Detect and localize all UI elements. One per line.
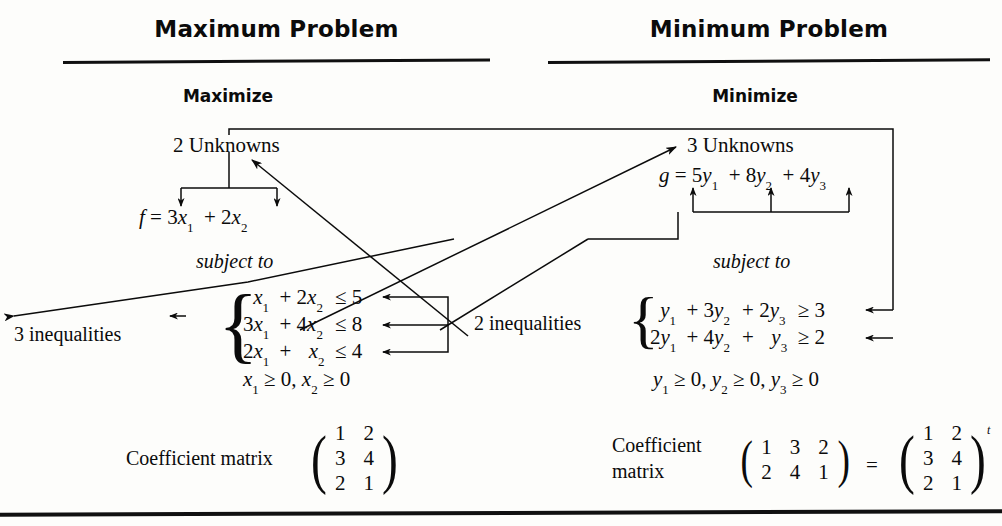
minimum-subject-to-label: subject to	[713, 250, 790, 273]
matrix-left-paren: (	[740, 434, 752, 486]
maximum-subject-to-label: subject to	[196, 250, 273, 273]
matrix-right-paren: )	[382, 426, 398, 492]
matrix-cell: 2	[752, 460, 781, 485]
maximum-constraint-row-2: 3x1 + 4x2 ≤ 8	[243, 311, 362, 338]
matrix-cell: 1	[914, 421, 943, 446]
matrix-cell: 2	[942, 421, 971, 446]
matrix-cell: 2	[326, 471, 355, 496]
matrix-cell: 4	[354, 446, 383, 471]
min-objective-bus-inlet	[588, 212, 678, 239]
maximum-matrix-cells: 123421	[326, 421, 383, 496]
matrix-right-paren: )	[970, 426, 986, 492]
minimum-transpose-matrix: ( 123421 ) t	[896, 421, 990, 496]
minimum-constraint-row-1: y1 + 3y2 + 2y3 ≥ 3	[650, 297, 825, 324]
minimize-subtitle: Minimize	[640, 86, 870, 106]
maximum-problem-title: Maximum Problem	[63, 16, 490, 42]
maximum-unknowns-label: 2 Unknowns	[173, 133, 280, 158]
transpose-exponent: t	[987, 423, 990, 438]
matrix-left-paren: (	[311, 426, 327, 492]
matrix-cell: 1	[326, 421, 355, 446]
maximize-subtitle: Maximize	[113, 86, 343, 106]
matrix-cell: 4	[942, 446, 971, 471]
matrix-cell: 1	[752, 435, 781, 460]
matrix-cell: 2	[914, 471, 943, 496]
minimum-nonnegativity-constraints: y1 ≥ 0, y2 ≥ 0, y3 ≥ 0	[653, 369, 819, 393]
matrix-equality-sign: =	[866, 455, 878, 476]
transpose-matrix-cells: 123421	[914, 421, 971, 496]
matrix-cell: 1	[942, 471, 971, 496]
maximum-coefficient-matrix: ( 123421 )	[308, 421, 401, 496]
duality-diagram-figure: Maximum Problem Maximize 2 Unknowns f = …	[0, 0, 1002, 526]
minimum-problem-title: Minimum Problem	[548, 16, 990, 42]
minimum-constraint-row-2: 2y1 + 4y2 + y3 ≥ 2	[650, 324, 825, 351]
matrix-cell: 3	[914, 446, 943, 471]
matrix-cell: 1	[354, 471, 383, 496]
maximum-constraints-group: x1 + 2x2 ≤ 5 3x1 + 4x2 ≤ 8 2x1 + x2 ≤ 4	[243, 284, 362, 365]
matrix-cell: 3	[326, 446, 355, 471]
minimum-matrix-label-line1: Coefficient	[612, 434, 702, 457]
matrix-cell: 2	[354, 421, 383, 446]
three-inequalities-label: 3 inequalities	[14, 323, 121, 346]
minimum-constraints-group: y1 + 3y2 + 2y3 ≥ 3 2y1 + 4y2 + y3 ≥ 2	[650, 297, 825, 351]
matrix-cell: 4	[781, 460, 810, 485]
maximum-matrix-label: Coefficient matrix	[126, 447, 273, 470]
two-inequalities-label: 2 inequalities	[474, 312, 581, 335]
maximum-constraint-row-3: 2x1 + x2 ≤ 4	[243, 338, 362, 365]
maximum-nonnegativity-constraints: x1 ≥ 0, x2 ≥ 0	[243, 369, 350, 393]
maximum-constraint-row-1: x1 + 2x2 ≤ 5	[243, 284, 362, 311]
minimum-unknowns-label: 3 Unknowns	[687, 133, 794, 158]
matrix-cell: 3	[781, 435, 810, 460]
minimum-objective-function: g = 5y1 + 8y2 + 4y3	[659, 165, 826, 189]
matrix-left-paren: (	[899, 426, 915, 492]
matrix-cell: 2	[809, 435, 838, 460]
maximum-objective-function: f = 3x1 + 2x2	[139, 207, 247, 231]
minimum-matrix-label-line2: matrix	[612, 460, 664, 483]
matrix-cell: 1	[809, 460, 838, 485]
minimum-matrix-cells: 132241	[752, 435, 838, 485]
matrix-right-paren: )	[837, 434, 849, 486]
minimum-coefficient-matrix: ( 132241 )	[738, 434, 852, 486]
